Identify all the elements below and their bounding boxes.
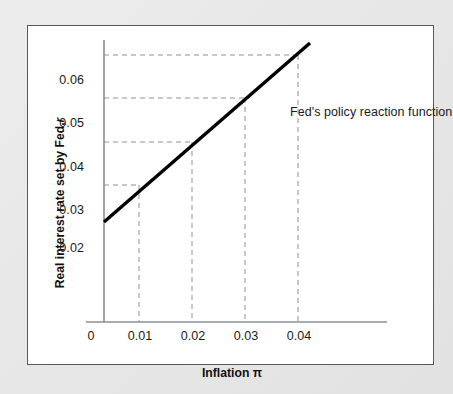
x-axis-title-symbol: π xyxy=(253,366,262,380)
policy-reaction-function-label: Fed's policy reaction function xyxy=(290,105,452,119)
y-tick-label-003: 0.03 xyxy=(40,203,84,217)
y-tick-label-002: 0.02 xyxy=(40,241,84,255)
x-tick-label-004: 0.04 xyxy=(276,329,322,343)
x-axis-title: Inflation π xyxy=(132,366,332,380)
x-tick-label-0: 0 xyxy=(68,329,114,343)
y-tick-label-004: 0.04 xyxy=(40,160,84,174)
chart-panel: Real interest rate set by Fed,r Inflatio… xyxy=(27,25,434,365)
x-tick-label-003: 0.03 xyxy=(223,329,269,343)
x-tick-label-001: 0.01 xyxy=(117,329,163,343)
x-axis-title-text: Inflation xyxy=(202,366,249,380)
figure-root: Real interest rate set by Fed,r Inflatio… xyxy=(0,0,453,394)
y-tick-label-005: 0.05 xyxy=(40,116,84,130)
y-tick-label-006: 0.06 xyxy=(40,73,84,87)
x-tick-label-002: 0.02 xyxy=(170,329,216,343)
